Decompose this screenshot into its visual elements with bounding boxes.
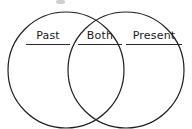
venn-label-both-text: Both <box>78 30 122 42</box>
venn-diagram-screenshot: Past Both Present <box>0 0 192 129</box>
venn-label-both: Both <box>78 30 122 45</box>
venn-diagram-svg <box>0 0 192 129</box>
venn-label-present-underline <box>126 44 182 45</box>
venn-label-present-text: Present <box>126 30 182 42</box>
venn-label-both-underline <box>78 44 122 45</box>
venn-label-present: Present <box>126 30 182 45</box>
venn-label-past-text: Past <box>26 30 70 42</box>
venn-label-past-underline <box>26 44 70 45</box>
venn-label-past: Past <box>26 30 70 45</box>
